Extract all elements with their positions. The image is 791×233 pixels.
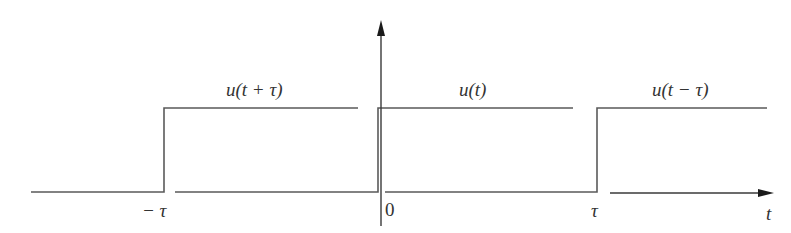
tick-tau: τ [591,201,598,220]
label-u-t-minus-tau: u(t − τ) [652,80,709,99]
label-u-t-plus-tau: u(t + τ) [226,80,283,99]
x-axis-label: t [766,204,771,223]
step-function-diagram: u(t + τ) u(t) u(t − τ) − τ 0 τ t [0,0,791,233]
vertical-axis-arrow-icon [377,20,385,36]
signal-u-t [175,108,573,192]
horizontal-axis-arrow-icon [758,189,774,197]
tick-minus-tau: − τ [142,201,166,220]
signal-u-t-minus-tau [385,108,767,192]
label-u-t: u(t) [459,80,486,99]
signal-u-t-plus-tau [31,108,358,192]
diagram-canvas [0,0,791,233]
horizontal-axis [610,189,774,197]
tick-zero: 0 [385,200,395,219]
